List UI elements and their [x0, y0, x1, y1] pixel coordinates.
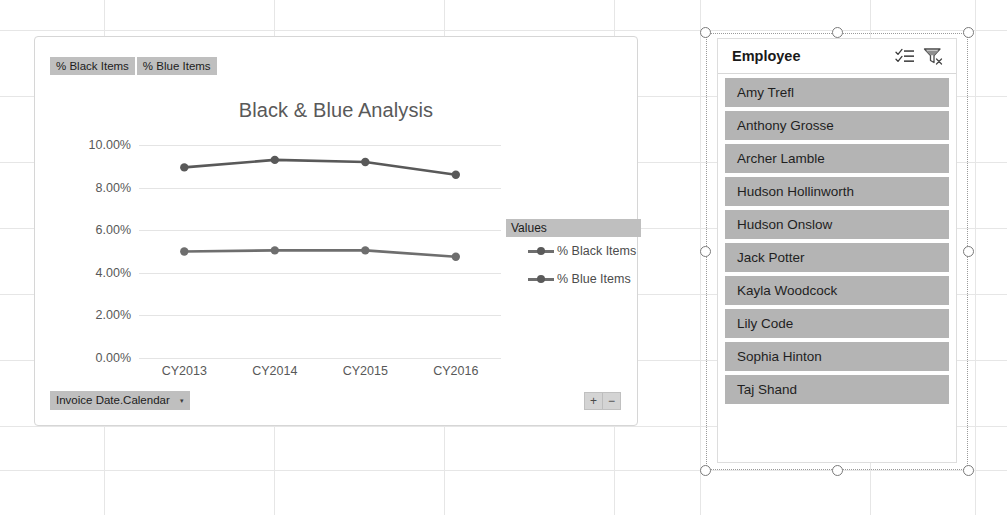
x-axis: CY2013CY2014CY2015CY2016	[139, 364, 501, 384]
legend-label-blue-items: % Blue Items	[557, 272, 631, 286]
slicer-item-list[interactable]: Amy TreflAnthony GrosseArcher LambleHuds…	[718, 74, 956, 413]
resize-handle-top-right[interactable]	[963, 27, 974, 38]
data-point	[452, 171, 460, 179]
resize-handle-middle-right[interactable]	[963, 246, 974, 257]
field-button-blue-items[interactable]: % Blue Items	[137, 57, 217, 75]
series-line	[184, 250, 456, 256]
slicer-item[interactable]: Kayla Woodcock	[725, 276, 949, 305]
gridline	[139, 358, 501, 359]
gridline	[139, 230, 501, 231]
y-axis-tick-label: 2.00%	[96, 308, 131, 322]
resize-handle-bottom-right[interactable]	[963, 465, 974, 476]
y-axis-tick-label: 6.00%	[96, 223, 131, 237]
data-point	[180, 163, 188, 171]
slicer-item[interactable]: Hudson Hollinworth	[725, 177, 949, 206]
x-axis-tick-label: CY2015	[343, 364, 388, 378]
resize-handle-top-center[interactable]	[832, 27, 843, 38]
pivot-chart[interactable]: % Black Items % Blue Items Black & Blue …	[34, 36, 638, 426]
expand-field-button[interactable]: +	[585, 393, 602, 409]
data-point	[180, 247, 188, 255]
resize-handle-bottom-center[interactable]	[832, 465, 843, 476]
slicer-item[interactable]: Archer Lamble	[725, 144, 949, 173]
y-axis-tick-label: 4.00%	[96, 266, 131, 280]
x-axis-tick-label: CY2016	[433, 364, 478, 378]
slicer-item[interactable]: Sophia Hinton	[725, 342, 949, 371]
plot-area	[139, 145, 501, 358]
employee-slicer[interactable]: Employee Amy TreflAnthony GrosseArch	[706, 33, 968, 470]
series-lines	[139, 145, 501, 358]
data-point	[361, 246, 369, 254]
y-axis-tick-label: 10.00%	[89, 138, 131, 152]
legend-label-black-items: % Black Items	[557, 244, 636, 258]
legend-swatch-black-items	[528, 245, 554, 257]
grid-column-line	[700, 0, 701, 515]
y-axis: 0.00%2.00%4.00%6.00%8.00%10.00%	[69, 137, 131, 366]
gridline	[139, 273, 501, 274]
series-line	[184, 160, 456, 175]
slicer-item[interactable]: Taj Shand	[725, 375, 949, 404]
slicer-item[interactable]: Lily Code	[725, 309, 949, 338]
data-point	[271, 156, 279, 164]
grid-row-line	[0, 470, 1007, 471]
legend-entry-black-items: % Black Items	[506, 237, 641, 265]
data-point	[452, 253, 460, 261]
legend-entry-blue-items: % Blue Items	[506, 265, 641, 293]
data-point	[361, 158, 369, 166]
clear-filter-icon[interactable]	[922, 46, 944, 66]
chart-legend: Values % Black Items % Blue Items	[506, 219, 641, 293]
slicer-item[interactable]: Amy Trefl	[725, 78, 949, 107]
gridline	[139, 145, 501, 146]
gridline	[139, 315, 501, 316]
legend-title: Values	[506, 219, 641, 237]
multi-select-icon[interactable]	[894, 46, 916, 66]
expand-collapse-buttons: + −	[584, 392, 621, 410]
chart-value-field-buttons: % Black Items % Blue Items	[50, 57, 217, 75]
slicer-title: Employee	[732, 48, 888, 64]
grid-column-line	[975, 0, 976, 515]
resize-handle-bottom-left[interactable]	[700, 465, 711, 476]
legend-swatch-blue-items	[528, 273, 554, 285]
gridline	[139, 188, 501, 189]
y-axis-tick-label: 8.00%	[96, 181, 131, 195]
slicer-item[interactable]: Anthony Grosse	[725, 111, 949, 140]
y-axis-tick-label: 0.00%	[96, 351, 131, 365]
field-button-invoice-date-calendar[interactable]: Invoice Date.Calendar ▾	[50, 391, 190, 410]
resize-handle-top-left[interactable]	[700, 27, 711, 38]
slicer-item[interactable]: Jack Potter	[725, 243, 949, 272]
field-button-black-items[interactable]: % Black Items	[50, 57, 135, 75]
slicer-panel: Employee Amy TreflAnthony GrosseArch	[717, 38, 957, 463]
collapse-field-button[interactable]: −	[602, 393, 620, 409]
field-button-label: Invoice Date.Calendar	[56, 391, 170, 410]
x-axis-tick-label: CY2013	[162, 364, 207, 378]
grid-row-line	[0, 30, 1007, 31]
chart-title: Black & Blue Analysis	[35, 99, 637, 122]
data-point	[271, 246, 279, 254]
chevron-down-icon: ▾	[180, 397, 184, 404]
slicer-item[interactable]: Hudson Onslow	[725, 210, 949, 239]
resize-handle-middle-left[interactable]	[700, 246, 711, 257]
slicer-header: Employee	[718, 39, 956, 74]
x-axis-tick-label: CY2014	[252, 364, 297, 378]
